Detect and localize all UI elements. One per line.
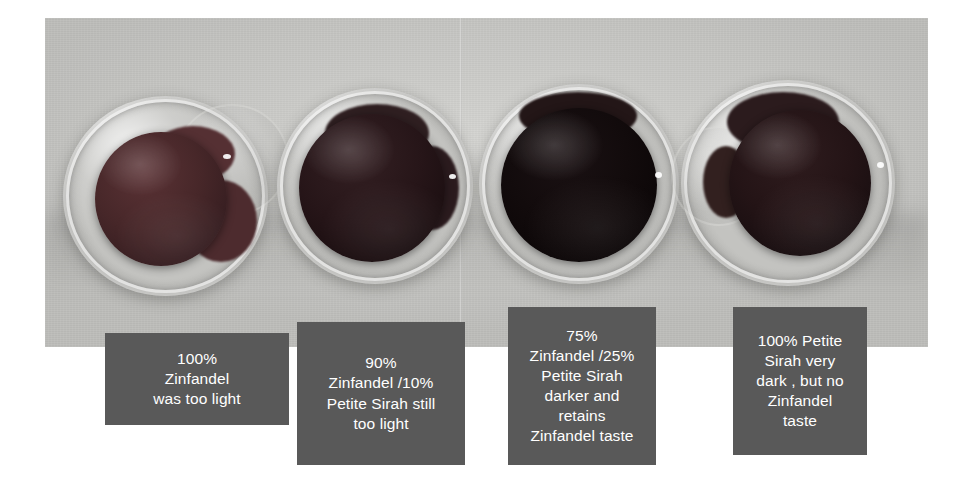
wine-comparison-photo [45, 18, 928, 347]
glass-1-highlight [223, 154, 231, 159]
glass-4-wine-sheen [729, 110, 871, 256]
caption-box-1: 100% Zinfandel was too light [105, 333, 289, 425]
slide-canvas: 100% Zinfandel was too light 90% Zinfand… [0, 0, 970, 480]
wine-glass-4 [681, 80, 895, 286]
caption-box-3: 75% Zinfandel /25% Petite Sirah darker a… [508, 307, 656, 465]
glass-2-highlight [449, 174, 456, 179]
wine-glass-2 [277, 88, 473, 284]
glass-3-wine-surface [501, 108, 657, 262]
glass-3-wine-sheen [501, 108, 657, 262]
glass-1-wine-surface [95, 132, 227, 266]
glass-1-wine-sheen [95, 132, 227, 266]
glass-3-highlight [655, 172, 662, 178]
glass-4-highlight [877, 162, 884, 168]
glass-2-wine-sheen [299, 114, 445, 262]
caption-box-2: 90% Zinfandel /10% Petite Sirah still to… [297, 322, 465, 465]
wine-glass-1 [63, 96, 268, 296]
caption-box-4: 100% Petite Sirah very dark , but no Zin… [733, 307, 867, 455]
glass-2-wine-surface [299, 114, 445, 262]
wine-glass-3 [479, 84, 679, 284]
glass-4-wine-surface [729, 110, 871, 256]
